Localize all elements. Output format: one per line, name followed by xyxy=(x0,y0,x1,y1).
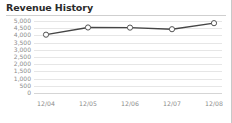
data-point-marker[interactable] xyxy=(169,27,174,32)
y-axis-tick-label: 500 xyxy=(20,83,31,89)
title-divider xyxy=(6,15,226,16)
x-axis-tick-label: 12/08 xyxy=(205,101,223,107)
data-point-marker[interactable] xyxy=(85,25,90,30)
page-title: Revenue History xyxy=(6,2,93,13)
x-axis-tick-label: 12/06 xyxy=(121,101,139,107)
series-svg xyxy=(34,21,222,93)
gridline xyxy=(34,93,222,94)
revenue-history-chart-widget: Revenue History 05001,0001,5002,0002,500… xyxy=(0,0,232,123)
y-axis-tick-label: 2,000 xyxy=(14,61,31,67)
data-point-markers xyxy=(43,21,216,38)
y-axis-tick-label: 5,000 xyxy=(14,18,31,24)
x-axis-tick-label: 12/04 xyxy=(37,101,55,107)
y-axis-tick-label: 3,500 xyxy=(14,40,31,46)
y-axis-tick-label: 3,000 xyxy=(14,47,31,53)
data-point-marker[interactable] xyxy=(43,32,48,37)
y-axis-tick-label: 0 xyxy=(27,90,31,96)
y-axis-tick-label: 1,500 xyxy=(14,68,31,74)
y-axis-tick-label: 4,500 xyxy=(14,25,31,31)
x-axis-tick-label: 12/07 xyxy=(163,101,181,107)
data-point-marker[interactable] xyxy=(211,21,216,26)
x-axis-tick-label: 12/05 xyxy=(79,101,97,107)
chart-plot-area: 05001,0001,5002,0002,5003,0003,5004,0004… xyxy=(34,21,222,93)
y-axis-tick-label: 1,000 xyxy=(14,76,31,82)
y-axis-tick-label: 4,000 xyxy=(14,32,31,38)
y-axis-tick-label: 2,500 xyxy=(14,54,31,60)
data-point-marker[interactable] xyxy=(127,25,132,30)
